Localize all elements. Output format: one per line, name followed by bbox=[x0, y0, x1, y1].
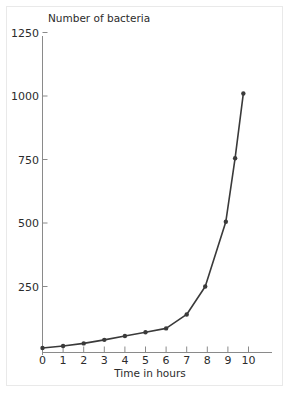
data-point bbox=[203, 284, 207, 288]
data-point bbox=[102, 338, 106, 342]
data-point bbox=[143, 330, 147, 334]
y-axis-title: Number of bacteria bbox=[48, 12, 150, 24]
x-tick-label: 3 bbox=[101, 354, 108, 367]
data-point bbox=[185, 312, 189, 316]
chart-figure: 25050075010001250 012345678910 Number of… bbox=[0, 0, 291, 393]
data-point bbox=[233, 156, 237, 160]
data-point bbox=[40, 346, 44, 350]
y-tick-label: 1250 bbox=[11, 27, 39, 40]
series-marker-group bbox=[40, 91, 245, 350]
x-tick-group bbox=[43, 347, 249, 353]
x-tick-label-group: 012345678910 bbox=[39, 354, 256, 367]
x-axis: 012345678910 bbox=[39, 347, 272, 368]
chart-canvas: 25050075010001250 012345678910 Number of… bbox=[0, 0, 291, 393]
data-point bbox=[123, 334, 127, 338]
y-tick-label: 1000 bbox=[11, 90, 39, 103]
x-tick-label: 4 bbox=[121, 354, 128, 367]
y-tick-label: 500 bbox=[18, 217, 39, 230]
x-tick-label: 0 bbox=[39, 354, 46, 367]
y-tick-label: 250 bbox=[18, 281, 39, 294]
series-line-bacteria bbox=[43, 93, 244, 348]
data-point bbox=[224, 220, 228, 224]
x-tick-label: 9 bbox=[224, 354, 231, 367]
data-series-group bbox=[40, 91, 245, 350]
x-tick-label: 8 bbox=[204, 354, 211, 367]
y-tick-group bbox=[43, 33, 48, 287]
x-tick-label: 6 bbox=[163, 354, 170, 367]
data-point bbox=[82, 341, 86, 345]
y-axis: 25050075010001250 bbox=[11, 27, 48, 356]
data-point bbox=[241, 91, 245, 95]
y-tick-label: 750 bbox=[18, 154, 39, 167]
y-tick-label-group: 25050075010001250 bbox=[11, 27, 39, 294]
data-point bbox=[61, 344, 65, 348]
x-tick-label: 7 bbox=[183, 354, 190, 367]
data-point bbox=[164, 326, 168, 330]
x-tick-label: 5 bbox=[142, 354, 149, 367]
x-tick-label: 2 bbox=[80, 354, 87, 367]
x-tick-label: 10 bbox=[242, 354, 256, 367]
x-axis-title: Time in hours bbox=[113, 367, 185, 379]
x-tick-label: 1 bbox=[60, 354, 67, 367]
